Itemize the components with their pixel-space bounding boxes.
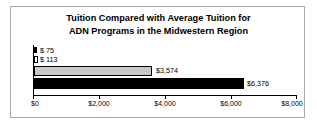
x-axis-tick (99, 96, 100, 99)
chart-container: Tuition Compared with Average Tuition fo… (0, 0, 317, 125)
x-axis-tick-label: $4,000 (154, 100, 175, 107)
chart-title-line-1: Tuition Compared with Average Tuition fo… (11, 12, 306, 25)
bar-label-2: $ 113 (40, 55, 57, 64)
x-axis-tick (231, 96, 232, 99)
bar-label-1: $ 75 (40, 46, 54, 55)
x-axis-tick-label: $0 (31, 100, 39, 107)
bar-label-4: $6,376 (247, 79, 269, 88)
x-axis-tick (33, 96, 34, 99)
chart-title-line-2: ADN Programs in the Midwestern Region (11, 25, 306, 38)
bar-value-2[interactable] (34, 56, 38, 63)
x-axis-tick (296, 96, 297, 99)
chart-frame: Tuition Compared with Average Tuition fo… (10, 6, 305, 118)
bar-value-1[interactable] (34, 47, 37, 53)
bar-value-3[interactable] (34, 66, 152, 76)
x-axis-tick-label: $8,000 (281, 100, 302, 107)
x-axis-tick-label: $2,000 (88, 100, 109, 107)
chart-title: Tuition Compared with Average Tuition fo… (11, 12, 306, 38)
x-axis-tick-label: $6,000 (220, 100, 241, 107)
x-axis-tick (165, 96, 166, 99)
plot-area: $ 75 $ 113 $3,574 $6,376 (33, 45, 296, 95)
bar-value-4[interactable] (34, 78, 244, 89)
bar-label-3: $3,574 (156, 66, 178, 75)
